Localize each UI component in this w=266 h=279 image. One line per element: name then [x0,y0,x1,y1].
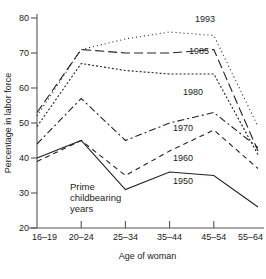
series-line-1985 [37,50,258,152]
y-tick-label: 50 [19,118,29,128]
x-tick-label: 55–64 [238,232,263,242]
series-line-1960 [37,130,258,176]
y-tick-label: 80 [19,13,29,23]
series-label-1980: 1980 [183,87,203,97]
series-label-1960: 1960 [173,153,193,163]
x-tick-label: 45–54 [201,232,226,242]
chart-canvas: 8070605040302016–1920–2425–3435–4445–545… [0,0,266,279]
x-tick-label: 35–44 [157,232,182,242]
labor-force-line-chart: 8070605040302016–1920–2425–3435–4445–545… [0,0,266,279]
y-tick-label: 70 [19,48,29,58]
series-label-1970: 1970 [173,123,193,133]
y-tick-label: 40 [19,153,29,163]
annotation-prime-childbearing-years: childbearing [70,192,121,203]
y-tick-label: 20 [19,223,29,233]
y-axis-title: Percentage in labor force [3,73,13,174]
x-tick-label: 16–19 [32,232,57,242]
annotation-prime-childbearing-years: years [70,203,93,214]
series-label-1950: 1950 [173,176,193,186]
series-label-1985: 1985 [189,46,209,56]
x-axis-title: Age of woman [119,251,177,261]
x-tick-label: 25–34 [113,232,138,242]
series-line-1980 [37,64,258,155]
y-tick-label: 60 [19,83,29,93]
series-label-1993: 1993 [195,14,215,24]
x-tick-label: 20–24 [69,232,94,242]
y-tick-label: 30 [19,188,29,198]
annotation-prime-childbearing-years: Prime [70,181,95,192]
